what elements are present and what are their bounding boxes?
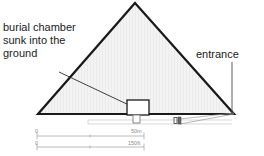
pyramid-cross-section-diagram: burial chamber sunk into the ground entr… bbox=[0, 0, 264, 156]
scale-imperial-max-label: 150ft bbox=[128, 140, 140, 146]
scale-metric-max-label: 50m bbox=[131, 128, 142, 134]
burial-chamber-annotation: burial chamber sunk into the ground bbox=[3, 21, 76, 60]
burial-chamber-line-3: ground bbox=[3, 47, 76, 60]
scale-imperial-zero-label: 0 bbox=[35, 140, 38, 146]
scale-metric-zero-label: 0 bbox=[35, 128, 38, 134]
burial-chamber-box bbox=[127, 100, 149, 115]
burial-chamber-line-2: sunk into the bbox=[3, 34, 76, 47]
burial-chamber-line-1: burial chamber bbox=[3, 21, 76, 34]
passage-marker bbox=[174, 118, 177, 124]
chamber-shaft bbox=[133, 115, 140, 123]
passage-marker-block bbox=[178, 117, 181, 124]
entrance-annotation: entrance bbox=[196, 48, 239, 61]
entrance-slope-lower bbox=[180, 114, 234, 124]
